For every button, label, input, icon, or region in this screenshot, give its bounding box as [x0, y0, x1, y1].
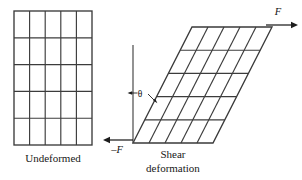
- sheared-grid-outline: [133, 27, 272, 143]
- sheared-column-line: [181, 27, 240, 143]
- undeformed-grid-lines: [14, 11, 92, 145]
- sheared-column-line: [165, 27, 224, 143]
- sheared-label-line2: deformation: [146, 162, 200, 174]
- angle-label: θ: [138, 89, 143, 99]
- force-bottom-label: –F: [110, 144, 123, 155]
- shear-deformation-figure: θ F –F Undeformed Shear deformation: [0, 0, 302, 180]
- sheared-label-line1: Shear: [160, 148, 185, 160]
- force-arrow-top: F: [266, 6, 298, 28]
- force-arrow-bottom: –F: [103, 137, 133, 155]
- sheared-column-line: [149, 27, 208, 143]
- figure-canvas: θ F –F Undeformed Shear deformation: [0, 0, 302, 180]
- angle-tick-arrowhead: [128, 91, 133, 95]
- sheared-column-line: [197, 27, 256, 143]
- force-bottom-arrowhead: [103, 137, 110, 143]
- undeformed-grid-outline: [14, 11, 92, 145]
- sheared-grid: [133, 27, 272, 143]
- angle-annotation: θ: [128, 89, 158, 104]
- undeformed-grid: [14, 11, 92, 145]
- undeformed-label: Undeformed: [25, 152, 81, 164]
- force-top-arrowhead: [291, 22, 298, 28]
- force-top-label: F: [274, 6, 282, 17]
